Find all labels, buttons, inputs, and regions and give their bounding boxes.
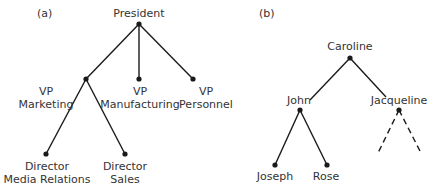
label-director-media-line1: Director xyxy=(3,160,90,173)
label-vp-marketing-line2: Marketing xyxy=(19,98,74,111)
node-director-media-relations xyxy=(43,151,48,156)
node-president xyxy=(136,21,141,26)
label-caroline: Caroline xyxy=(327,40,372,53)
label-rose: Rose xyxy=(313,170,339,183)
node-rose xyxy=(324,162,329,167)
label-president: President xyxy=(113,7,164,20)
node-joseph xyxy=(272,162,277,167)
label-jacqueline: Jacqueline xyxy=(371,94,428,107)
label-director-media-relations: Director Media Relations xyxy=(3,160,90,186)
edge-president-vp-marketing xyxy=(86,24,139,79)
edge-john-rose xyxy=(300,110,327,165)
node-director-sales xyxy=(122,151,127,156)
edge-john-joseph xyxy=(275,110,300,165)
edge-caroline-john xyxy=(310,58,350,100)
panel-a-label: (a) xyxy=(37,7,52,20)
label-vp-personnel-line1: VP xyxy=(179,85,233,98)
label-vp-manufacturing-line1: VP xyxy=(100,85,180,98)
label-vp-manufacturing-line2: Manufacturing xyxy=(100,98,180,111)
node-vp-marketing xyxy=(83,76,88,81)
panel-b-label: (b) xyxy=(259,7,275,20)
edge-jacqueline-dashed-right xyxy=(399,110,421,153)
label-john: John xyxy=(287,94,311,107)
label-vp-marketing: VP Marketing xyxy=(19,85,74,111)
label-director-sales-line1: Director xyxy=(103,160,147,173)
edge-president-vp-personnel xyxy=(139,24,193,79)
label-vp-manufacturing: VP Manufacturing xyxy=(100,85,180,111)
node-john xyxy=(297,107,302,112)
label-director-media-line2: Media Relations xyxy=(3,173,90,186)
label-vp-marketing-line1: VP xyxy=(19,85,74,98)
label-joseph: Joseph xyxy=(257,170,293,183)
label-director-sales: Director Sales xyxy=(103,160,147,186)
label-vp-personnel-line2: Personnel xyxy=(179,98,233,111)
label-vp-personnel: VP Personnel xyxy=(179,85,233,111)
edge-caroline-jacqueline xyxy=(350,58,386,97)
node-jacqueline xyxy=(396,107,401,112)
node-vp-personnel xyxy=(190,76,195,81)
label-director-sales-line2: Sales xyxy=(103,173,147,186)
node-caroline xyxy=(347,55,352,60)
node-vp-manufacturing xyxy=(136,76,141,81)
edge-jacqueline-dashed-left xyxy=(378,110,399,153)
